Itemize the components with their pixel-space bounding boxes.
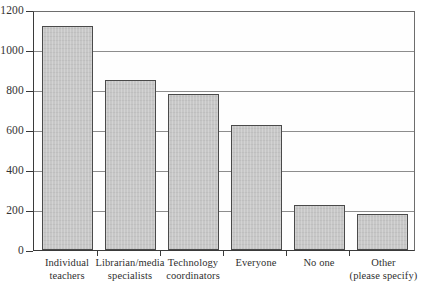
y-axis-tick xyxy=(26,211,33,212)
bar-chart: 1200 1000 800 600 400 200 0 Individual t… xyxy=(0,0,428,288)
y-axis-tick-label: 200 xyxy=(0,205,24,217)
bar-everyone xyxy=(231,125,282,250)
bar-no-one xyxy=(294,205,345,250)
y-axis-tick-label: 800 xyxy=(0,85,24,97)
bar-individual-teachers xyxy=(42,26,93,250)
bar-other-please-specify xyxy=(357,214,408,250)
x-axis-tick xyxy=(286,251,287,256)
y-axis-tick-label: 1000 xyxy=(0,45,24,57)
bar-librarian-media-specialists xyxy=(105,80,156,250)
y-axis-tick xyxy=(26,171,33,172)
y-axis-tick-label: 600 xyxy=(0,125,24,137)
y-axis-tick-label: 1200 xyxy=(0,5,24,17)
y-axis-tick xyxy=(26,251,33,252)
y-axis-tick xyxy=(26,131,33,132)
plot-area xyxy=(33,11,415,251)
y-axis-tick-label: 0 xyxy=(0,245,24,257)
x-axis-tick xyxy=(160,251,161,256)
x-axis-tick xyxy=(223,251,224,256)
y-axis-tick xyxy=(26,91,33,92)
y-axis-tick-label: 400 xyxy=(0,165,24,177)
x-axis-label-other-please-specify: Other (please specify) xyxy=(339,257,428,282)
y-axis-tick xyxy=(26,51,33,52)
x-axis-tick xyxy=(349,251,350,256)
bar-technology-coordinators xyxy=(168,94,219,250)
x-axis-tick xyxy=(97,251,98,256)
y-axis-tick xyxy=(26,11,33,12)
